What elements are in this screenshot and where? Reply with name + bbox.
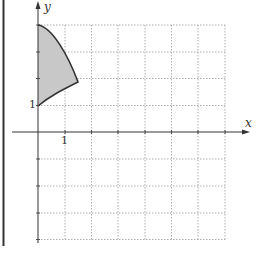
x-axis-label: x — [245, 116, 252, 130]
y-axis-label: y — [44, 0, 51, 14]
y-tick-label-1: 1 — [29, 98, 36, 111]
coordinate-plane-figure — [0, 0, 261, 253]
y-axis-arrow-icon — [36, 1, 41, 9]
x-tick-label-1: 1 — [61, 134, 68, 147]
x-axis-arrow-icon — [242, 130, 250, 135]
